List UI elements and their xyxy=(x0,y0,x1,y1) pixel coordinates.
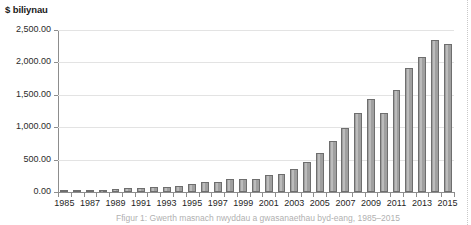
bar-2007 xyxy=(341,128,349,192)
x-axis-tick-mark xyxy=(147,192,148,197)
bar-2015 xyxy=(444,44,452,192)
x-axis-tick-mark xyxy=(96,192,97,197)
x-axis-tick-mark xyxy=(313,192,314,197)
x-axis-tick-mark xyxy=(390,192,391,197)
bar-2008 xyxy=(354,113,362,192)
x-axis-tick-mark xyxy=(250,192,251,197)
x-axis-tick-mark xyxy=(403,192,404,197)
bar-2013 xyxy=(418,57,426,192)
bar-1998 xyxy=(226,179,234,192)
plot-area xyxy=(58,30,454,192)
x-axis-label-group: 1985198719891991199319951997199920012003… xyxy=(58,198,454,211)
x-axis-label-1991: 1991 xyxy=(131,198,151,208)
x-axis-label-1993: 1993 xyxy=(157,198,177,208)
bar-2005 xyxy=(316,153,324,192)
x-axis-tick-mark xyxy=(454,192,455,197)
x-axis-label-2011: 2011 xyxy=(387,198,406,208)
bar-2000 xyxy=(252,179,260,192)
bar-2012 xyxy=(405,68,413,192)
x-axis-tick-mark xyxy=(71,192,72,197)
x-axis-tick-mark xyxy=(262,192,263,197)
x-axis-label-1989: 1989 xyxy=(105,198,125,208)
bar-1999 xyxy=(239,179,247,192)
x-axis-tick-mark xyxy=(224,192,225,197)
x-axis-tick-mark xyxy=(275,192,276,197)
x-axis-label-1999: 1999 xyxy=(233,198,253,208)
x-axis-tick-mark xyxy=(428,192,429,197)
x-axis-tick-mark xyxy=(135,192,136,197)
y-axis-title: $ biliynau xyxy=(5,4,48,15)
x-axis-tick-mark xyxy=(326,192,327,197)
x-axis-tick-mark xyxy=(173,192,174,197)
x-axis-label-2003: 2003 xyxy=(284,198,304,208)
x-axis-tick-mark xyxy=(58,192,59,197)
x-axis-tick-mark xyxy=(211,192,212,197)
x-axis-tick-mark xyxy=(377,192,378,197)
x-axis-tick-mark xyxy=(288,192,289,197)
bar-2003 xyxy=(290,169,298,192)
x-axis-label-1985: 1985 xyxy=(54,198,74,208)
y-axis-tick-label: 0.00 xyxy=(33,186,51,196)
y-axis-tick-label: 500.00 xyxy=(23,154,51,164)
bar-2009 xyxy=(367,99,375,192)
x-axis-tick-mark xyxy=(365,192,366,197)
bar-series xyxy=(58,30,454,192)
figure-caption-text: Ffigur 1: Gwerth masnach nwyddau a gwasa… xyxy=(58,214,458,223)
x-axis-tick-mark xyxy=(416,192,417,197)
x-axis-label-2005: 2005 xyxy=(310,198,330,208)
x-axis-label-2009: 2009 xyxy=(361,198,381,208)
dotted-page-edge-icon xyxy=(467,0,468,225)
bar-2011 xyxy=(393,90,401,192)
x-axis-tick-mark xyxy=(186,192,187,197)
bar-2004 xyxy=(303,162,311,192)
x-axis-tick-mark xyxy=(441,192,442,197)
bar-1996 xyxy=(201,182,209,192)
y-axis-tick-label: 2,000.00 xyxy=(16,56,51,66)
x-axis-tick-mark xyxy=(122,192,123,197)
x-axis-label-1995: 1995 xyxy=(182,198,202,208)
x-axis-tick-mark xyxy=(84,192,85,197)
x-axis-tick-mark xyxy=(352,192,353,197)
x-axis-label-2013: 2013 xyxy=(412,198,432,208)
figure-caption: Ffigur 1: Gwerth masnach nwyddau a gwasa… xyxy=(58,214,458,225)
x-axis-label-2001: 2001 xyxy=(259,198,279,208)
bar-1995 xyxy=(188,184,196,192)
x-axis-tick-mark xyxy=(301,192,302,197)
x-axis-tick-mark xyxy=(199,192,200,197)
bar-2002 xyxy=(278,174,286,192)
x-axis-tick-mark xyxy=(109,192,110,197)
x-axis-label-2015: 2015 xyxy=(438,198,458,208)
x-axis-tick-mark xyxy=(237,192,238,197)
x-axis-label-2007: 2007 xyxy=(335,198,355,208)
x-axis-tick-mark xyxy=(160,192,161,197)
bar-1997 xyxy=(214,182,222,192)
bar-2006 xyxy=(329,141,337,192)
y-axis-tick-label: 2,500.00 xyxy=(16,24,51,34)
y-axis-tick-label: 1,000.00 xyxy=(16,121,51,131)
bar-2001 xyxy=(265,175,273,192)
bar-2010 xyxy=(380,113,388,192)
bar-2014 xyxy=(431,40,439,192)
x-axis-tick-mark xyxy=(339,192,340,197)
y-axis-tick-group: 0.00500.001,000.001,500.002,000.002,500.… xyxy=(0,30,58,192)
y-axis-tick-label: 1,500.00 xyxy=(16,89,51,99)
chart-figure: $ biliynau 0.00500.001,000.001,500.002,0… xyxy=(0,0,471,225)
x-axis-label-1997: 1997 xyxy=(208,198,228,208)
x-axis-label-1987: 1987 xyxy=(80,198,100,208)
